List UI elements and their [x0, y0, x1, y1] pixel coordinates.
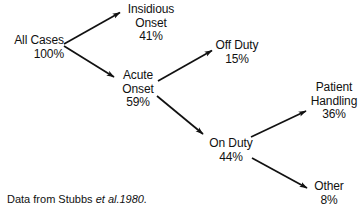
node-other-label: Other — [310, 180, 348, 194]
node-insidious-onset-label-line2: Onset — [124, 17, 178, 31]
node-on-duty: On Duty 44% — [206, 137, 256, 164]
node-other-value: 8% — [310, 194, 348, 208]
node-other: Other 8% — [310, 180, 348, 207]
caption-prefix: Data from Stubbs — [7, 193, 96, 205]
caption-citation: et al.1980. — [96, 193, 147, 205]
node-patient-handling-label-line2: Handling — [306, 95, 362, 109]
node-acute-onset-value: 59% — [114, 96, 162, 110]
node-off-duty-label: Off Duty — [213, 39, 261, 53]
node-acute-onset: Acute Onset 59% — [114, 69, 162, 110]
edge-all-cases-to-insidious-onset — [64, 13, 120, 45]
node-all-cases-label: All Cases — [6, 34, 64, 48]
node-patient-handling-value: 36% — [306, 108, 362, 122]
flow-diagram: All Cases 100% Insidious Onset 41% Acute… — [0, 0, 363, 218]
node-on-duty-value: 44% — [206, 151, 256, 165]
node-acute-onset-label-line2: Onset — [114, 83, 162, 97]
node-insidious-onset-value: 41% — [124, 30, 178, 44]
node-all-cases: All Cases 100% — [6, 34, 64, 61]
node-off-duty: Off Duty 15% — [213, 39, 261, 66]
edge-acute-onset-to-on-duty — [157, 96, 203, 134]
node-insidious-onset: Insidious Onset 41% — [124, 3, 178, 44]
node-insidious-onset-label-line1: Insidious — [124, 3, 178, 17]
edge-all-cases-to-acute-onset — [64, 46, 114, 77]
node-acute-onset-label-line1: Acute — [114, 69, 162, 83]
node-patient-handling: Patient Handling 36% — [306, 81, 362, 122]
node-off-duty-value: 15% — [213, 53, 261, 67]
node-all-cases-value: 100% — [6, 48, 64, 62]
edge-on-duty-to-other — [252, 158, 307, 188]
source-caption: Data from Stubbs et al.1980. — [7, 193, 147, 205]
node-on-duty-label: On Duty — [206, 137, 256, 151]
edge-acute-onset-to-off-duty — [158, 51, 212, 82]
node-patient-handling-label-line1: Patient — [306, 81, 362, 95]
edge-on-duty-to-patient-handling — [251, 111, 306, 137]
